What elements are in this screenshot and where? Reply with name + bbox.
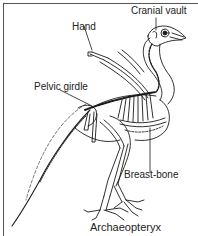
label-cranial-vault: Cranial vault <box>131 6 187 16</box>
label-hand: Hand <box>72 22 96 32</box>
femur <box>100 122 120 148</box>
label-pelvic-girdle: Pelvic girdle <box>34 82 88 92</box>
archaeopteryx-skeleton-illustration <box>0 0 198 236</box>
diagram-title: Archaeopteryx <box>90 222 161 233</box>
leader-pelvic-girdle <box>60 90 92 106</box>
feet <box>84 200 144 220</box>
neck-outline <box>143 38 162 100</box>
tail <box>12 110 90 226</box>
label-breast-bone: Breast-bone <box>124 170 178 180</box>
body-outline <box>135 100 169 141</box>
